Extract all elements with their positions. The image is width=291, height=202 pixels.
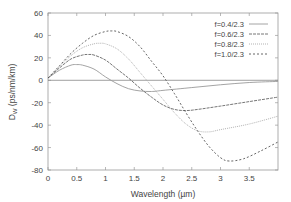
chart: 00.511.522.533.5-80-60-40-200204060 f=0.… [0, 0, 291, 202]
y-tick-label: 20 [34, 54, 43, 63]
legend: f=0.4/2.3f=0.6/2.3f=0.8/2.3f=1.0/2.3 [215, 20, 268, 59]
x-tick-label: 3 [218, 174, 223, 183]
x-tick-label: 1 [103, 174, 108, 183]
x-axis-label: Wavelength (µm) [131, 189, 196, 199]
legend-label: f=0.8/2.3 [215, 40, 244, 49]
x-tick-label: 1.5 [129, 174, 141, 183]
y-tick-label: -20 [31, 99, 43, 108]
legend-label: f=1.0/2.3 [215, 50, 244, 59]
legend-label: f=0.4/2.3 [215, 20, 244, 29]
y-tick-label: -40 [31, 121, 43, 130]
x-tick-label: 2.5 [186, 174, 198, 183]
series-line [48, 65, 278, 92]
x-tick-label: 2 [161, 174, 166, 183]
legend-label: f=0.6/2.3 [215, 30, 244, 39]
x-tick-label: 0.5 [71, 174, 83, 183]
y-tick-label: -60 [31, 144, 43, 153]
y-axis-label: DW (ps/nm/km) [7, 64, 18, 121]
x-tick-label: 3.5 [244, 174, 256, 183]
y-tick-label: -80 [31, 166, 43, 175]
y-tick-label: 40 [34, 31, 43, 40]
x-tick-label: 0 [46, 174, 51, 183]
y-tick-label: 60 [34, 9, 43, 18]
y-tick-label: 0 [39, 76, 44, 85]
